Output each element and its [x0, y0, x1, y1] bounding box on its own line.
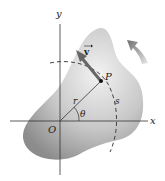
rotation-diagram: y x O P v r θ s: [0, 0, 165, 181]
origin-label: O: [48, 124, 56, 135]
radius-label: r: [73, 96, 78, 106]
point-label: P: [104, 71, 112, 82]
rotation-arrow-icon: [127, 40, 148, 64]
x-axis-label: x: [150, 115, 156, 126]
y-axis-label: y: [55, 8, 62, 19]
angle-label: θ: [80, 109, 86, 119]
velocity-label: v: [83, 47, 90, 57]
arc-length-label: s: [115, 96, 120, 106]
point-p: [99, 79, 103, 83]
